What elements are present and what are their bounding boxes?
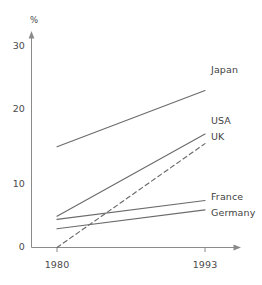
series-label-japan: Japan	[211, 65, 238, 75]
y-tick-label-30: 30	[5, 41, 25, 51]
series-label-france: France	[211, 192, 243, 202]
series-line-germany	[57, 210, 205, 229]
y-axis-arrowhead	[29, 31, 35, 39]
series-label-uk: UK	[211, 132, 224, 142]
y-axis-unit-label: %	[30, 16, 38, 25]
x-axis-arrowhead	[234, 245, 242, 251]
x-tick-label-1993: 1993	[185, 260, 225, 270]
line-chart: % 30 20 10 0 1980 1993 Japan USA UK Fran…	[0, 0, 262, 285]
chart-plot-area	[0, 0, 262, 285]
y-tick-label-20: 20	[5, 104, 25, 114]
series-line-uk	[57, 144, 205, 248]
series-label-usa: USA	[211, 116, 231, 126]
x-tick-label-1980: 1980	[37, 260, 77, 270]
series-label-germany: Germany	[211, 208, 255, 218]
series-line-japan	[57, 91, 205, 147]
y-tick-label-10: 10	[5, 179, 25, 189]
y-tick-label-0: 0	[5, 242, 25, 252]
